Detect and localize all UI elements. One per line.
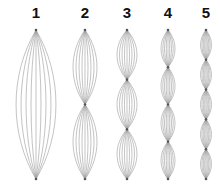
- node-dot: [35, 178, 38, 181]
- lobe: [201, 149, 212, 179]
- node-dot: [167, 29, 170, 32]
- node-dot: [126, 78, 129, 81]
- node-dot: [35, 29, 38, 32]
- lobes-canvas: [0, 0, 221, 185]
- node-dot: [167, 66, 170, 69]
- lobe: [117, 129, 137, 179]
- lobe: [73, 30, 97, 105]
- node-dot: [126, 29, 129, 32]
- mode-column-4: [161, 29, 175, 181]
- harmonics-diagram: 1 2 3 4 5: [0, 0, 221, 185]
- lobe: [16, 30, 56, 179]
- lobe: [161, 67, 175, 104]
- lobe: [161, 142, 175, 179]
- node-dot: [84, 178, 87, 181]
- node-dot: [205, 148, 208, 151]
- node-dot: [84, 29, 87, 32]
- node-dot: [205, 59, 208, 62]
- lobe: [201, 60, 212, 90]
- lobe: [201, 30, 212, 60]
- node-dot: [205, 118, 208, 121]
- mode-column-1: [16, 29, 56, 181]
- mode-column-2: [73, 29, 97, 181]
- lobe: [201, 90, 212, 120]
- lobe: [201, 119, 212, 149]
- node-dot: [126, 128, 129, 131]
- node-dot: [205, 88, 208, 91]
- lobe: [161, 105, 175, 142]
- lobe: [117, 30, 137, 80]
- node-dot: [167, 103, 170, 106]
- node-dot: [84, 103, 87, 106]
- node-dot: [126, 178, 129, 181]
- node-dot: [167, 140, 170, 143]
- lobe: [117, 80, 137, 130]
- mode-column-5: [201, 29, 212, 181]
- node-dot: [205, 178, 208, 181]
- mode-column-3: [117, 29, 137, 181]
- lobe: [73, 105, 97, 180]
- node-dot: [205, 29, 208, 32]
- lobe: [161, 30, 175, 67]
- node-dot: [167, 178, 170, 181]
